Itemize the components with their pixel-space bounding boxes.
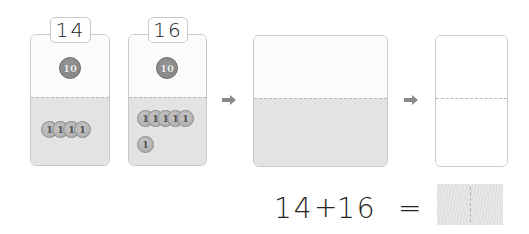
number-card-14 [30, 34, 110, 166]
ones-area [129, 97, 206, 165]
arrow-right-icon [222, 95, 236, 105]
ones-area [254, 98, 387, 166]
tens-area [254, 36, 387, 100]
card-label: 16 [148, 17, 188, 43]
equation-left-operand: 14 [274, 193, 314, 225]
equation-operator: + [314, 192, 339, 224]
result-card [435, 35, 508, 167]
combined-card [253, 35, 388, 167]
ten-coin: 10 [59, 57, 81, 79]
one-coin: 1 [177, 110, 194, 127]
ones-area [436, 98, 507, 166]
tens-area [436, 36, 507, 100]
card-label: 14 [50, 17, 91, 43]
equation-right-operand: 16 [337, 193, 377, 225]
ten-coin: 10 [156, 57, 178, 79]
equation-equals: = [398, 192, 423, 224]
arrow-right-icon [404, 95, 418, 105]
one-coin: 1 [74, 121, 91, 138]
answer-box[interactable] [437, 184, 503, 225]
answer-divider [470, 187, 471, 222]
one-coin: 1 [137, 136, 154, 153]
